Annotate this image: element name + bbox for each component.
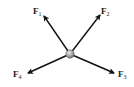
- label-f2: F2: [101, 6, 110, 17]
- label-f1: F1: [33, 6, 42, 17]
- particle: [66, 50, 74, 58]
- force-arrow-f4: [28, 54, 70, 73]
- force-arrow-f1: [44, 16, 70, 54]
- label-f3: F3: [118, 69, 127, 80]
- force-arrow-f3: [70, 54, 114, 73]
- force-diagram: F1 F2 F3 F4: [0, 0, 134, 87]
- force-diagram-canvas: F1 F2 F3 F4: [0, 0, 134, 87]
- label-f4: F4: [13, 69, 22, 80]
- force-arrow-f2: [70, 15, 100, 54]
